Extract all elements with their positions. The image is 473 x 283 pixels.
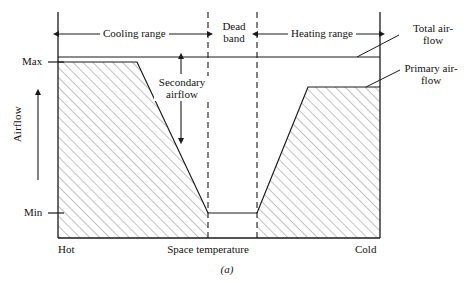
primary-airflow-label-line1: Primary air- [404,62,457,74]
figure-caption: (a) [212,263,242,275]
secondary-airflow-label-line1: Secondary [159,76,205,88]
y-tick-label-min: Min [24,206,42,218]
dead-band-region [209,214,257,238]
x-tick-label-hot: Hot [58,243,75,255]
x-tick-label-cold: Cold [355,243,376,255]
dead-band-label-line2: band [223,32,244,44]
cooling-range-label: Cooling range [100,27,169,39]
total-airflow-label-line1: Total air- [413,22,453,34]
total-airflow-label: Total air- flow [396,22,470,47]
secondary-airflow-label: Secondary airflow [154,76,210,101]
total-airflow-label-line2: flow [423,34,443,46]
dead-band-label: Dead band [216,20,252,45]
heating-range-label: Heating range [288,27,356,39]
primary-airflow-label-line2: flow [421,74,441,86]
dead-band-label-line1: Dead [222,20,245,32]
secondary-airflow-label-line2: airflow [166,88,198,100]
x-tick-label-space-temperature: Space temperature [160,243,256,255]
y-tick-label-max: Max [22,55,42,67]
y-axis-label: Airflow [11,106,23,142]
primary-airflow-label: Primary air- flow [390,62,472,87]
